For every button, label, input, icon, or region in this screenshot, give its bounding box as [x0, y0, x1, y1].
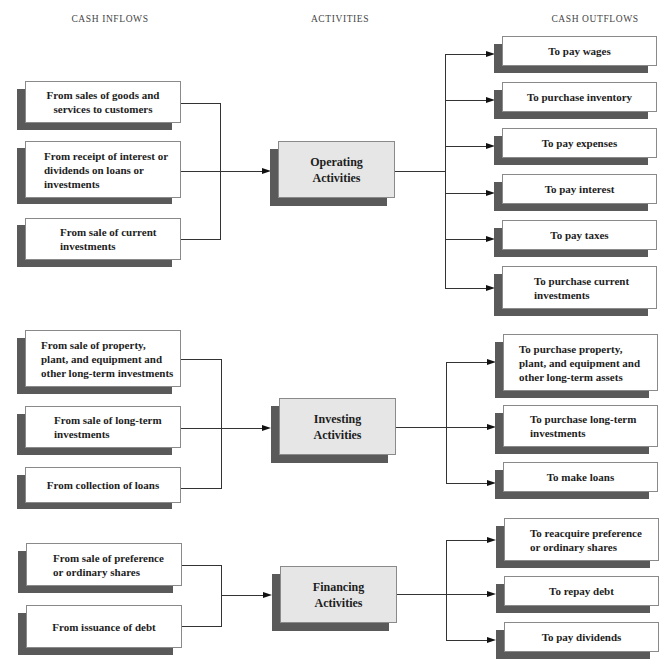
activity-box: Operating Activities	[278, 141, 395, 198]
connector-line	[445, 54, 446, 289]
outflow-label: To pay taxes	[503, 228, 656, 242]
outflow-label: To purchase long-term investments	[530, 412, 649, 440]
connector-line	[445, 146, 487, 147]
connector-line	[446, 483, 488, 484]
connector-line	[445, 288, 487, 289]
inflow-box: From sales of goods and services to cust…	[25, 81, 181, 123]
inflow-box: From issuance of debt	[26, 605, 182, 648]
connector-line	[445, 54, 487, 55]
connector-line	[446, 362, 488, 363]
connector-line	[446, 540, 488, 541]
header-cash-outflows: CASH OUTFLOWS	[530, 14, 660, 24]
outflow-box: To pay interest	[502, 174, 657, 204]
outflow-box: To pay wages	[502, 36, 657, 66]
connector-line	[221, 359, 222, 489]
activity-label: Financing Activities	[303, 579, 374, 611]
connector-line	[181, 239, 221, 240]
inflow-label: From sale of preference or ordinary shar…	[53, 551, 173, 579]
outflow-label: To pay interest	[503, 182, 656, 196]
outflow-label: To purchase current investments	[534, 274, 648, 302]
outflow-label: To purchase property, plant, and equipme…	[519, 342, 651, 384]
arrow-right-icon	[487, 637, 496, 643]
connector-line	[181, 359, 221, 360]
outflow-label: To pay expenses	[503, 136, 656, 150]
connector-line	[181, 428, 221, 429]
connector-line	[182, 565, 222, 566]
connector-line	[446, 594, 488, 595]
inflow-box: From sale of current investments	[25, 218, 181, 260]
arrow-right-icon	[262, 425, 271, 431]
outflow-label: To reacquire preference or ordinary shar…	[530, 526, 650, 554]
activity-box: Financing Activities	[280, 566, 397, 623]
activity-label: Operating Activities	[301, 154, 372, 186]
outflow-label: To pay dividends	[505, 630, 658, 644]
connector-line	[396, 427, 446, 428]
connector-line	[445, 100, 487, 101]
outflow-label: To repay debt	[505, 584, 658, 598]
outflow-box: To make loans	[503, 462, 658, 492]
inflow-label: From sale of long-term investments	[54, 413, 172, 441]
connector-line	[221, 565, 222, 627]
outflow-box: To reacquire preference or ordinary shar…	[504, 518, 659, 561]
inflow-label: From sale of current investments	[60, 225, 172, 253]
connector-line	[181, 103, 221, 104]
connector-line	[397, 594, 447, 595]
arrow-right-icon	[487, 537, 496, 543]
activity-label: Investing Activities	[302, 411, 373, 443]
connector-line	[446, 362, 447, 484]
arrow-right-icon	[487, 591, 496, 597]
activity-box: Investing Activities	[279, 398, 396, 455]
connector-line	[181, 488, 221, 489]
outflow-box: To pay dividends	[504, 622, 659, 652]
inflow-box: From receipt of interest or dividends on…	[25, 141, 181, 198]
outflow-box: To purchase property, plant, and equipme…	[503, 334, 658, 391]
header-activities: ACTIVITIES	[285, 14, 395, 24]
header-cash-inflows: CASH INFLOWS	[40, 14, 180, 24]
outflow-box: To purchase current investments	[502, 266, 657, 309]
connector-line	[445, 239, 487, 240]
inflow-label: From sales of goods and services to cust…	[38, 88, 168, 116]
connector-line	[446, 640, 488, 641]
connector-line	[221, 171, 263, 172]
connector-line	[221, 428, 263, 429]
inflow-label: From receipt of interest or dividends on…	[44, 149, 172, 191]
connector-line	[395, 171, 445, 172]
inflow-label: From sale of property, plant, and equipm…	[41, 338, 174, 380]
inflow-box: From sale of long-term investments	[25, 406, 181, 448]
inflow-label: From collection of loans	[26, 478, 180, 492]
outflow-label: To purchase inventory	[503, 90, 656, 104]
inflow-label: From issuance of debt	[27, 620, 181, 634]
connector-line	[446, 427, 488, 428]
connector-line	[222, 595, 264, 596]
inflow-box: From sale of property, plant, and equipm…	[25, 330, 181, 387]
outflow-box: To repay debt	[504, 576, 659, 606]
outflow-label: To pay wages	[503, 44, 656, 58]
outflow-box: To purchase inventory	[502, 82, 657, 112]
outflow-box: To pay taxes	[502, 220, 657, 250]
outflow-label: To make loans	[504, 470, 657, 484]
inflow-box: From sale of preference or ordinary shar…	[26, 543, 182, 586]
inflow-box: From collection of loans	[25, 467, 181, 503]
outflow-box: To purchase long-term investments	[503, 405, 658, 447]
outflow-box: To pay expenses	[502, 128, 657, 158]
connector-line	[446, 540, 447, 640]
connector-line	[181, 171, 221, 172]
connector-line	[182, 626, 222, 627]
arrow-right-icon	[263, 592, 272, 598]
connector-line	[445, 193, 487, 194]
